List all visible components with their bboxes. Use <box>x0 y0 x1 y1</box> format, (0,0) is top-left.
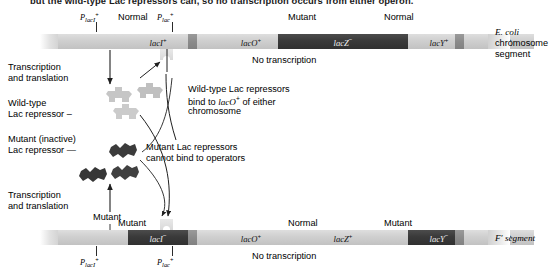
status-mutant-lacy-bottom: Mutant <box>384 218 412 229</box>
bound-repressor-bottom-operator <box>160 219 173 230</box>
repressor-wildtype-glyph-1 <box>106 86 136 103</box>
figure-lac-operon-diagram: but the wild-type Lac repressors can, so… <box>0 0 555 274</box>
spacer-promoter-lac <box>197 34 224 49</box>
chrom-end-left <box>40 230 58 245</box>
curve-binding-note-leader <box>166 74 176 140</box>
label-wildtype-repressor-1: Wild-type <box>8 98 46 109</box>
label-mutant-repressor-2: Lac repressor — <box>8 145 76 156</box>
arrow-wildtype-to-top-operator <box>140 62 160 78</box>
caption-segment: segment <box>495 49 530 60</box>
label-transcription-top-2: and translation <box>8 73 68 84</box>
gene-lacI-minus-label: lacI− <box>128 232 188 242</box>
label-wildtype-repressor-2: Lac repressor – <box>8 109 72 120</box>
curve-wildtype-to-bottom-operator <box>140 115 169 216</box>
note-nobind-line2: cannot bind to operators <box>146 153 245 164</box>
bottom-chromosome-bar: lacI− lacO+ lacZ+ lacY− lacA+ <box>40 230 520 245</box>
tick-P-lacI-bottom <box>96 246 97 256</box>
gene-lacZ-minus: lacZ− <box>278 34 408 49</box>
status-normal-laci-top: Normal <box>118 12 148 23</box>
spacer-promoter-lac <box>197 230 224 245</box>
caption-f-prime-segment: F′ segment <box>495 233 535 244</box>
status-normal-lacz-bottom: Normal <box>288 218 318 229</box>
junction-block-1 <box>188 34 197 49</box>
gene-lacO-plus-label: lacO+ <box>224 232 278 242</box>
no-transcription-top: No transcription <box>252 55 316 66</box>
caption-chromosome: chromosome <box>495 38 548 49</box>
gene-lacI-minus: lacI− <box>128 230 188 245</box>
status-normal-lacy-top: Normal <box>384 12 414 23</box>
repressor-wildtype-glyph-3 <box>113 103 143 120</box>
gene-lacZ-plus: lacZ+ <box>278 230 408 245</box>
label-transcription-bottom-1: Transcription <box>8 190 61 201</box>
gene-lacZ-minus-label: lacZ− <box>278 36 408 46</box>
promoter-label-P-lac-top: Plac+ <box>157 11 173 24</box>
junction-block-1 <box>188 230 197 245</box>
no-transcription-bottom: No transcription <box>252 251 316 262</box>
bottom-spacer-downstream <box>464 230 488 245</box>
spacer-upstream-laci <box>58 34 128 49</box>
top-junction-block-2 <box>455 34 464 49</box>
promoter-label-P-lac-bottom: Plac+ <box>157 256 173 269</box>
top-spacer-downstream <box>464 34 488 49</box>
spacer-upstream-laci <box>58 230 128 245</box>
bottom-junction-block-2 <box>455 230 464 245</box>
label-mutant-repressor-1: Mutant (inactive) <box>8 134 76 145</box>
note-nobind-line1: Mutant Lac repressors <box>146 142 237 153</box>
caption-ecoli-italic: E. coli <box>495 27 519 38</box>
label-mutant-source-bottom: Mutant <box>93 212 121 223</box>
top-chromosome-bar: lacI+ lacO+ lacZ− lacY+ lacA+ <box>40 34 520 49</box>
label-transcription-top-1: Transcription <box>8 62 61 73</box>
label-transcription-bottom-2: and translation <box>8 201 68 212</box>
bound-repressor-top-operator <box>160 49 173 60</box>
gene-lacO-plus-label: lacO+ <box>224 36 278 46</box>
gene-lacO-plus: lacO+ <box>224 230 278 245</box>
status-mutant-laci-bottom: Mutant <box>118 218 146 229</box>
gene-lacI-plus: lacI+ <box>128 34 188 49</box>
note-binding-line3: chromosome <box>188 106 241 117</box>
status-mutant-lacz-top: Mutant <box>288 12 316 23</box>
chrom-end-left <box>40 34 58 49</box>
note-binding-line1: Wild-type Lac repressors <box>188 84 290 95</box>
repressor-mutant-glyph-1 <box>108 141 140 159</box>
promoter-label-P-lacI-bottom: PlacI+ <box>80 256 99 269</box>
promoter-label-P-lacI-top: PlacI+ <box>80 11 99 24</box>
gene-lacZ-plus-label: lacZ+ <box>278 232 408 242</box>
repressor-mutant-glyph-3 <box>110 163 142 181</box>
tick-P-lac-bottom <box>172 246 173 256</box>
curve-mutant-blocked-bottom <box>140 160 165 216</box>
gene-lacO-plus: lacO+ <box>224 34 278 49</box>
repressor-mutant-glyph-2 <box>78 165 110 183</box>
gene-lacI-plus-label: lacI+ <box>128 36 188 46</box>
figure-headline: but the wild-type Lac repressors can, so… <box>30 0 413 6</box>
repressor-wildtype-glyph-2 <box>137 82 167 99</box>
